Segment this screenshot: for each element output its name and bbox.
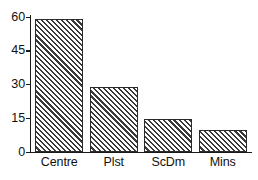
bar xyxy=(90,87,138,152)
bar xyxy=(144,119,192,152)
bar-chart: 015304560 CentrePlstScDmMins xyxy=(0,0,258,180)
x-axis-tick-label: Centre xyxy=(32,156,87,170)
bar xyxy=(199,130,247,153)
bars-layer xyxy=(0,0,258,180)
bar xyxy=(35,19,83,152)
x-axis-tick-label: Plst xyxy=(87,156,142,170)
x-axis-tick-label: Mins xyxy=(196,156,251,170)
x-axis-tick-label: ScDm xyxy=(141,156,196,170)
